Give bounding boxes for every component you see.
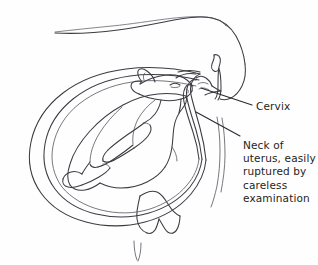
fetus-body bbox=[68, 94, 187, 191]
fetus-forelimb bbox=[90, 123, 151, 167]
uterus-wall-outer bbox=[29, 68, 206, 226]
illustration-canvas: Cervix Neck of uterus, easily ruptured b… bbox=[0, 0, 318, 265]
anatomy-line-drawing bbox=[0, 0, 318, 265]
neck-of-uterus-label: Neck of uterus, easily ruptured by carel… bbox=[243, 139, 316, 205]
hind-leg bbox=[211, 117, 225, 207]
cervix-label: Cervix bbox=[256, 100, 290, 113]
fetus-eye bbox=[170, 84, 180, 88]
neck-of-uterus-leader-line[interactable] bbox=[196, 112, 240, 136]
fetus-hindlimb bbox=[63, 147, 177, 187]
cow-back-line bbox=[55, 17, 245, 64]
cervix-leader-line[interactable] bbox=[201, 88, 252, 105]
cervix-canal bbox=[184, 74, 213, 160]
